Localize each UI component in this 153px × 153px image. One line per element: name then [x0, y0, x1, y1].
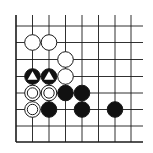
white-stone-circle-marked [41, 85, 57, 101]
go-board [0, 0, 153, 153]
black-stone [41, 102, 57, 118]
white-stone [41, 35, 57, 51]
white-stone [25, 35, 41, 51]
black-stone [58, 85, 74, 101]
black-stone [107, 102, 123, 118]
black-stone [74, 102, 90, 118]
white-stone-circle-marked [25, 85, 41, 101]
black-stone-triangle-marked [41, 69, 57, 85]
stones-layer [25, 35, 123, 118]
black-stone [74, 85, 90, 101]
white-stone [58, 69, 74, 85]
white-stone [58, 52, 74, 68]
white-stone-circle-marked [25, 102, 41, 118]
black-stone-triangle-marked [25, 69, 41, 85]
